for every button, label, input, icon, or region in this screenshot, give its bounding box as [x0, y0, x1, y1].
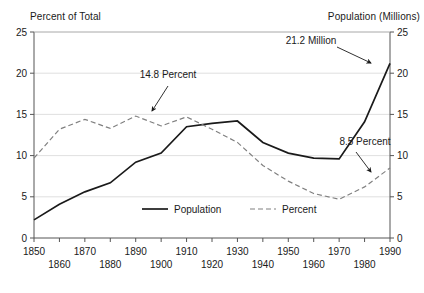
right-tick-label: 15 [397, 109, 409, 120]
annotation-arrow [152, 86, 168, 111]
left-tick-label: 10 [16, 150, 28, 161]
legend-label-population: Population [174, 204, 221, 215]
series-line-population [34, 63, 390, 220]
right-tick-label: 0 [397, 233, 403, 244]
x-tick-label: 1960 [303, 259, 326, 270]
right-axis-title: Population (Millions) [328, 11, 420, 22]
x-tick-label: 1930 [226, 246, 249, 257]
chart-plot: 0510152025 0510152025 185018601870188018… [0, 0, 424, 293]
left-tick-label: 20 [16, 68, 28, 79]
x-tick-label: 1870 [74, 246, 97, 257]
x-tick-label: 1990 [379, 246, 402, 257]
x-tick-label: 1940 [252, 259, 275, 270]
x-tick-label: 1920 [201, 259, 224, 270]
x-tick-label: 1910 [175, 246, 198, 257]
x-tick-label: 1880 [99, 259, 122, 270]
left-tick-label: 5 [21, 191, 27, 202]
x-tick-label: 1980 [353, 259, 376, 270]
right-tick-label: 10 [397, 150, 409, 161]
legend-label-percent: Percent [282, 204, 317, 215]
left-tick-label: 0 [21, 233, 27, 244]
left-axis-title: Percent of Total [30, 11, 101, 22]
right-tick-label: 25 [397, 27, 409, 38]
right-tick-label: 20 [397, 68, 409, 79]
right-axis-ticks: 0510152025 [390, 27, 409, 244]
gridlines [34, 32, 390, 197]
annotation-layer: 14.8 Percent21.2 Million8.5 Percent [140, 35, 391, 172]
left-axis-ticks: 0510152025 [16, 27, 34, 244]
annotation-arrow [337, 47, 371, 63]
annotation-label: 21.2 Million [286, 35, 337, 46]
x-tick-label: 1950 [277, 246, 300, 257]
left-tick-label: 15 [16, 109, 28, 120]
right-tick-label: 5 [397, 191, 403, 202]
x-axis-ticks: 1850186018701880189019001910192019301940… [23, 238, 402, 270]
chart-legend: PopulationPercent [142, 204, 317, 215]
x-tick-label: 1860 [48, 259, 71, 270]
series-line-percent [34, 116, 390, 199]
chart-container: Percent of Total Population (Millions) 0… [0, 0, 424, 293]
annotation-arrow [356, 152, 371, 172]
annotation-label: 14.8 Percent [140, 69, 197, 80]
x-tick-label: 1900 [150, 259, 173, 270]
x-tick-label: 1970 [328, 246, 351, 257]
annotation-label: 8.5 Percent [339, 136, 390, 147]
series-layer [34, 63, 390, 220]
x-tick-label: 1850 [23, 246, 46, 257]
left-tick-label: 25 [16, 27, 28, 38]
x-tick-label: 1890 [125, 246, 148, 257]
